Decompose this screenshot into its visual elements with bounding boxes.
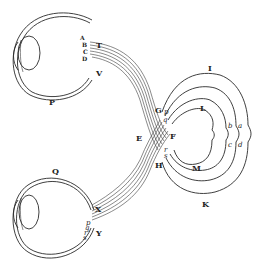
label-b: b — [228, 122, 233, 130]
label-q-chiasm: q — [163, 116, 168, 124]
label-s-lower: s — [83, 234, 87, 242]
label-c: c — [228, 141, 232, 149]
lower-optic-nerve — [92, 120, 170, 220]
label-V: V — [95, 68, 103, 78]
label-X: X — [95, 204, 102, 214]
label-G: G — [155, 105, 162, 115]
lower-eye — [13, 178, 94, 258]
label-a: a — [238, 122, 242, 130]
label-B: B — [82, 41, 87, 48]
label-H: H — [155, 160, 163, 170]
upper-optic-nerve — [90, 42, 168, 150]
upper-eye — [13, 13, 92, 100]
label-d: d — [238, 141, 243, 149]
label-Y: Y — [95, 228, 102, 238]
label-C: C — [83, 48, 88, 55]
label-F: F — [170, 131, 176, 141]
label-P: P — [49, 97, 55, 107]
label-s-chiasm: s — [164, 152, 168, 160]
label-A: A — [79, 34, 85, 41]
label-M: M — [192, 163, 201, 173]
label-p-chiasm: p — [164, 108, 169, 116]
label-K: K — [202, 199, 210, 209]
label-Q: Q — [52, 166, 59, 176]
label-D: D — [82, 55, 87, 62]
label-I: I — [208, 63, 212, 73]
label-E: E — [136, 133, 142, 143]
label-L: L — [200, 103, 206, 113]
visual-pathway-diagram: A B C D T V P Q X Y p q r s E F G H p q … — [0, 0, 259, 267]
label-T: T — [96, 40, 102, 50]
